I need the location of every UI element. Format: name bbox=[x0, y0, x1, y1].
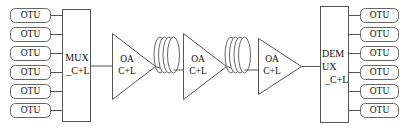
otu-label: OTU bbox=[21, 86, 41, 96]
oa2-label-line2: C+L bbox=[189, 66, 207, 76]
mux-node[interactable]: MUX _C+L bbox=[63, 10, 91, 122]
diagram-canvas: OTU OTU OTU OTU OTU bbox=[0, 0, 408, 132]
oa3-label-line2: C+L bbox=[263, 66, 281, 76]
list-item[interactable]: OTU bbox=[11, 104, 63, 118]
oa1-label-line1: OA bbox=[120, 54, 134, 64]
mux-label-line1: MUX bbox=[65, 52, 89, 63]
otu-label: OTU bbox=[370, 86, 390, 96]
transmit-otu-group: OTU OTU OTU OTU OTU bbox=[11, 9, 63, 118]
otu-label: OTU bbox=[370, 29, 390, 39]
oa1-label-line2: C+L bbox=[118, 66, 136, 76]
list-item[interactable]: OTU bbox=[349, 47, 399, 61]
otu-label: OTU bbox=[370, 67, 390, 77]
optical-amplifier-2[interactable]: OA C+L bbox=[184, 34, 227, 100]
oa2-label-line1: OA bbox=[191, 54, 205, 64]
otu-label: OTU bbox=[370, 105, 390, 115]
optical-amplifier-3[interactable]: OA C+L bbox=[259, 39, 302, 95]
demux-label-line1: DEM bbox=[322, 48, 344, 59]
list-item[interactable]: OTU bbox=[349, 9, 399, 23]
optical-link-diagram: OTU OTU OTU OTU OTU bbox=[0, 0, 408, 132]
list-item[interactable]: OTU bbox=[11, 47, 63, 61]
otu-label: OTU bbox=[370, 48, 390, 58]
otu-label: OTU bbox=[21, 67, 41, 77]
demux-label-line3: _C+L bbox=[324, 74, 348, 85]
oa3-label-line1: OA bbox=[265, 54, 279, 64]
receive-otu-group: OTU OTU OTU OTU OTU bbox=[349, 9, 399, 118]
list-item[interactable]: OTU bbox=[349, 28, 399, 42]
otu-label: OTU bbox=[21, 105, 41, 115]
list-item[interactable]: OTU bbox=[349, 104, 399, 118]
list-item[interactable]: OTU bbox=[11, 28, 63, 42]
otu-label: OTU bbox=[21, 48, 41, 58]
optical-amplifier-1[interactable]: OA C+L bbox=[113, 34, 156, 100]
otu-label: OTU bbox=[21, 10, 41, 20]
otu-label: OTU bbox=[21, 29, 41, 39]
demux-label-line2: UX bbox=[322, 61, 337, 72]
list-item[interactable]: OTU bbox=[11, 85, 63, 99]
mux-label-line2: _C+L bbox=[65, 65, 89, 76]
list-item[interactable]: OTU bbox=[349, 66, 399, 80]
list-item[interactable]: OTU bbox=[349, 85, 399, 99]
demux-node[interactable]: DEM UX _C+L bbox=[321, 7, 349, 123]
list-item[interactable]: OTU bbox=[11, 66, 63, 80]
list-item[interactable]: OTU bbox=[11, 9, 63, 23]
otu-label: OTU bbox=[370, 10, 390, 20]
